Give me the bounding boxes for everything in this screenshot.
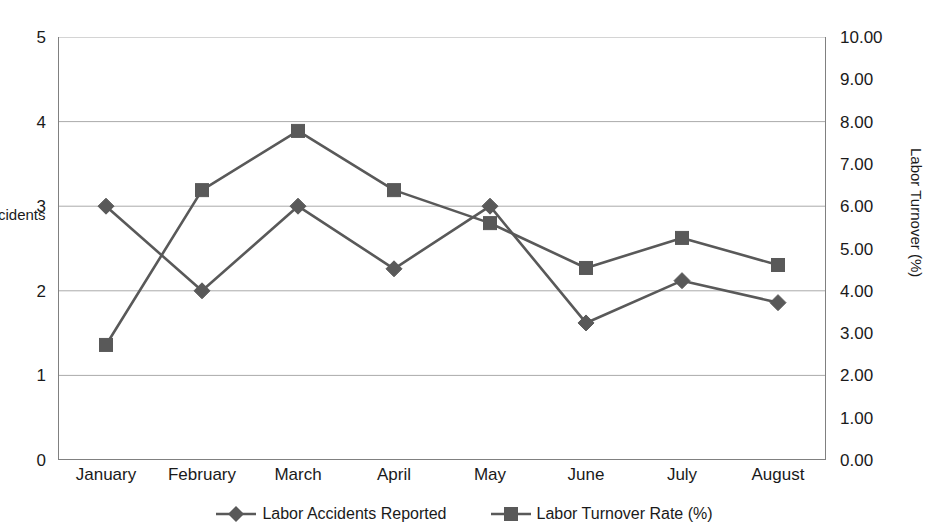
legend-label: Labor Accidents Reported [262, 505, 446, 523]
data-point-square [292, 124, 305, 137]
y-axis-left-tick-label: 3 [37, 198, 46, 215]
legend-label: Labor Turnover Rate (%) [537, 505, 713, 523]
gridlines [58, 37, 826, 460]
y-axis-right-tick-label: 5.00 [840, 240, 873, 257]
y-axis-right-tick-label: 6.00 [840, 198, 873, 215]
y-axis-right-tick-label: 10.00 [840, 29, 883, 46]
y-axis-right-tick-label: 2.00 [840, 367, 873, 384]
data-point-diamond [674, 273, 690, 289]
y-axis-right-tick-label: 0.00 [840, 452, 873, 469]
data-point-square [100, 338, 113, 351]
y-axis-right-tick-label: 8.00 [840, 113, 873, 130]
x-axis-tick-label: August [752, 466, 805, 483]
legend-marker [504, 507, 518, 521]
data-point-diamond [770, 295, 786, 311]
y-axis-right-tick-label: 9.00 [840, 71, 873, 88]
y-axis-right-tick-label: 7.00 [840, 155, 873, 172]
x-axis-tick-label: July [667, 466, 697, 483]
y-axis-left-tick-label: 0 [37, 452, 46, 469]
chart-legend: Labor Accidents ReportedLabor Turnover R… [0, 500, 927, 528]
x-axis-labels: JanuaryFebruaryMarchAprilMayJuneJulyAugu… [58, 466, 826, 494]
legend-marker [228, 506, 244, 522]
x-axis-tick-label: February [168, 466, 236, 483]
y-axis-left-tick-label: 5 [37, 29, 46, 46]
y-axis-left-tick-label: 2 [37, 282, 46, 299]
y-axis-left-tick-label: 1 [37, 367, 46, 384]
y-axis-right-tick-label: 1.00 [840, 409, 873, 426]
y-axis-left-tick-label: 4 [37, 113, 46, 130]
legend-item[interactable]: Labor Turnover Rate (%) [489, 504, 713, 524]
x-axis-tick-label: June [568, 466, 605, 483]
series-line [106, 206, 778, 323]
plot-svg [58, 37, 826, 460]
y-axis-right-title: Labor Turnover (%) [901, 148, 925, 277]
data-point-square [772, 258, 785, 271]
data-point-diamond [386, 261, 402, 277]
data-point-square [676, 231, 689, 244]
chart-container: Accidents Labor Turnover (%) 012345 0.00… [0, 0, 927, 532]
axis-lines [58, 37, 826, 460]
x-axis-tick-label: March [274, 466, 321, 483]
data-point-square [196, 184, 209, 197]
x-axis-tick-label: January [76, 466, 136, 483]
x-axis-tick-label: May [474, 466, 506, 483]
data-point-square [580, 261, 593, 274]
plot-area [58, 37, 826, 460]
data-point-square [484, 217, 497, 230]
legend-item[interactable]: Labor Accidents Reported [214, 504, 446, 524]
series-1 [98, 198, 786, 331]
legend-square-icon [489, 504, 533, 524]
y-axis-right-tick-label: 4.00 [840, 282, 873, 299]
x-axis-tick-label: April [377, 466, 411, 483]
y-axis-right-tick-label: 3.00 [840, 325, 873, 342]
data-point-square [388, 184, 401, 197]
axis-ticks [58, 37, 826, 460]
legend-diamond-icon [214, 504, 258, 524]
